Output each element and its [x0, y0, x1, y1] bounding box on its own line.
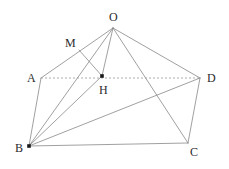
- edge-c-d: [188, 78, 200, 143]
- vertex-label-m: M: [65, 37, 76, 49]
- edge-o-a: [41, 28, 113, 78]
- vertex-dot-b: [27, 144, 31, 148]
- vertex-label-a: A: [27, 72, 36, 84]
- vertex-label-o: O: [109, 11, 118, 23]
- edge-b-h: [29, 76, 102, 146]
- vertex-dot-h: [100, 74, 104, 78]
- vertex-label-h: H: [99, 84, 108, 96]
- geometry-figure: OMAHDBC: [0, 0, 229, 169]
- edge-o-c: [113, 28, 188, 143]
- edge-b-c: [29, 143, 188, 146]
- edges-layer: [29, 28, 200, 146]
- vertex-label-d: D: [207, 72, 216, 84]
- vertex-label-b: B: [15, 142, 23, 154]
- vertex-label-c: C: [190, 146, 198, 158]
- edge-b-d: [29, 78, 200, 146]
- edge-m-h: [79, 50, 102, 76]
- edge-o-d: [113, 28, 200, 78]
